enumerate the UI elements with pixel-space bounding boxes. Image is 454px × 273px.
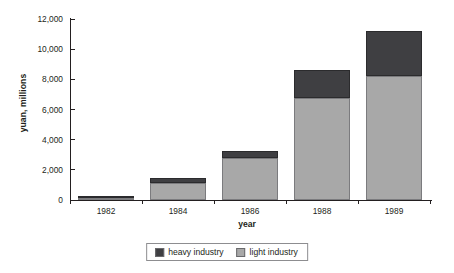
y-axis-tick-label: 8,000 <box>42 74 70 84</box>
bar-segment-heavy-industry[interactable] <box>222 151 278 158</box>
chart-container: yuan, millions 02,0004,0006,0008,00010,0… <box>0 0 454 273</box>
x-axis-tick-label: 1984 <box>138 206 218 216</box>
x-axis-tick-mark <box>214 200 215 204</box>
y-axis-tick-label: 12,000 <box>37 14 70 24</box>
bar-group[interactable] <box>294 70 350 200</box>
bar-segment-light-industry[interactable] <box>78 198 134 200</box>
x-axis-tick-label: 1988 <box>282 206 362 216</box>
y-axis-tick-label: 2,000 <box>42 165 70 175</box>
bar-group[interactable] <box>150 178 206 200</box>
legend-item-light-industry: light industry <box>237 247 298 257</box>
bar-group[interactable] <box>222 151 278 200</box>
y-axis-tick-label: 0 <box>58 195 70 205</box>
x-axis-tick-mark <box>358 200 359 204</box>
y-axis-title: yuan, millions <box>18 53 28 153</box>
x-axis-tick-mark <box>430 200 431 204</box>
x-axis-tick-mark <box>70 200 71 204</box>
y-axis-tick-mark <box>71 169 75 170</box>
y-axis-tick-label: 4,000 <box>42 135 70 145</box>
y-axis-tick-mark <box>71 79 75 80</box>
bar-segment-light-industry[interactable] <box>150 183 206 200</box>
y-axis-tick-label: 6,000 <box>42 105 70 115</box>
plot-area: 02,0004,0006,0008,00010,00012,000 <box>70 19 430 200</box>
x-axis-tick-mark <box>286 200 287 204</box>
legend-label-heavy-industry: heavy industry <box>168 247 223 257</box>
x-axis-tick-label: 1989 <box>354 206 434 216</box>
legend-swatch-light-industry <box>237 248 246 257</box>
y-axis-tick-label: 10,000 <box>37 44 70 54</box>
y-axis-tick-mark <box>71 19 75 20</box>
bar-segment-heavy-industry[interactable] <box>366 31 422 76</box>
chart-legend: heavy industry light industry <box>146 243 308 261</box>
legend-item-heavy-industry: heavy industry <box>155 247 223 257</box>
x-axis-tick-label: 1982 <box>66 206 146 216</box>
bar-group[interactable] <box>366 31 422 200</box>
y-axis-tick-mark <box>71 200 75 201</box>
bar-segment-heavy-industry[interactable] <box>294 70 350 98</box>
x-axis-tick-mark <box>142 200 143 204</box>
legend-label-light-industry: light industry <box>250 247 298 257</box>
bar-segment-light-industry[interactable] <box>294 98 350 200</box>
bar-segment-light-industry[interactable] <box>222 158 278 200</box>
y-axis-tick-mark <box>71 49 75 50</box>
x-axis-line <box>70 200 432 201</box>
x-axis-title: year <box>0 219 454 229</box>
y-axis-tick-mark <box>71 109 75 110</box>
y-axis-tick-mark <box>71 139 75 140</box>
legend-swatch-heavy-industry <box>155 248 164 257</box>
x-axis-tick-label: 1986 <box>210 206 290 216</box>
bar-group[interactable] <box>78 196 134 201</box>
bar-segment-light-industry[interactable] <box>366 76 422 200</box>
